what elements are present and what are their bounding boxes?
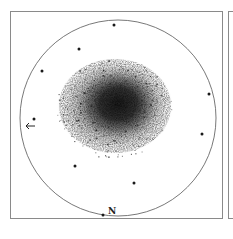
star (133, 182, 136, 185)
star (78, 48, 81, 51)
star (74, 165, 77, 168)
cluster-sketch (0, 0, 233, 239)
star (208, 93, 211, 96)
star (102, 214, 105, 217)
star (33, 118, 36, 121)
cluster-grain (59, 59, 171, 153)
north-label: N (108, 206, 116, 216)
star (201, 133, 204, 136)
star (41, 70, 44, 73)
left-arrow-icon (26, 123, 35, 129)
star (113, 24, 116, 27)
